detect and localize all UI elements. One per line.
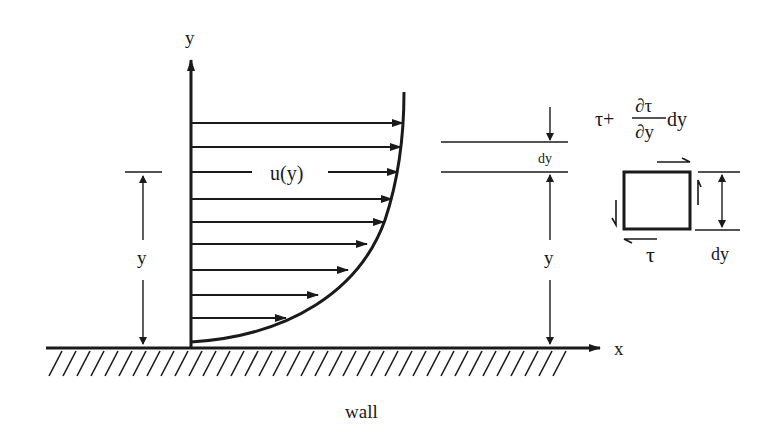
gap-label: dy <box>538 151 552 166</box>
top-stress-numerator: ∂τ <box>635 95 652 116</box>
right-shear-arrow <box>698 180 701 205</box>
wall <box>46 348 600 376</box>
right-height-label: y <box>544 247 554 268</box>
top-stress-expression: τ+ ∂τ ∂y dy <box>595 95 687 142</box>
fluid-element <box>624 172 690 229</box>
velocity-arrows <box>192 123 403 318</box>
x-axis-label: x <box>614 338 624 359</box>
top-shear-arrow <box>657 158 690 162</box>
bottom-stress-label: τ <box>646 242 655 267</box>
element-height-dimension <box>695 172 740 230</box>
left-shear-arrow <box>612 200 616 225</box>
top-stress-tau: τ+ <box>595 108 614 130</box>
profile-label: u(y) <box>270 162 303 185</box>
wall-label: wall <box>345 401 378 422</box>
boundary-layer-diagram: x y u(y) y dy y <box>0 0 777 448</box>
left-height-label: y <box>137 247 147 268</box>
top-stress-denominator: ∂y <box>635 121 654 142</box>
y-axis-label: y <box>185 27 195 48</box>
right-height-dimension <box>441 107 568 344</box>
top-stress-suffix: dy <box>667 108 687 131</box>
wall-hatching <box>49 351 566 376</box>
element-height-label: dy <box>711 244 729 264</box>
velocity-profile-curve <box>191 92 404 342</box>
